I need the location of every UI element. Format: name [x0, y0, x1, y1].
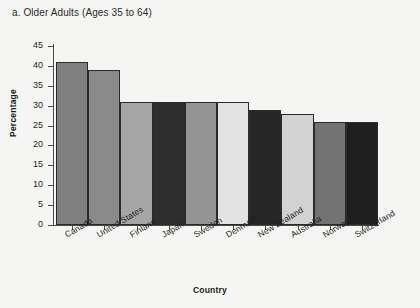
y-tick-mark	[48, 106, 53, 107]
y-tick-label: 20	[3, 139, 43, 149]
page-title: a. Older Adults (Ages 35 to 64)	[12, 7, 152, 18]
y-tick-mark	[48, 46, 53, 47]
bar-united-states	[88, 70, 120, 225]
bar-japan	[153, 102, 185, 225]
bar-canada	[56, 62, 88, 225]
y-tick-label: 0	[3, 219, 43, 229]
y-axis-line	[53, 44, 54, 226]
y-tick-label: 10	[3, 179, 43, 189]
bar-sweden	[185, 102, 217, 225]
y-tick-mark	[48, 126, 53, 127]
bar-new-zealand	[249, 110, 281, 225]
y-tick-mark	[48, 145, 53, 146]
bar-switzerland	[346, 122, 378, 225]
y-tick-label: 30	[3, 100, 43, 110]
y-tick-label: 5	[3, 199, 43, 209]
y-tick-label: 25	[3, 120, 43, 130]
y-tick-mark	[48, 185, 53, 186]
y-tick-mark	[48, 66, 53, 67]
y-tick-mark	[48, 165, 53, 166]
x-axis-title: Country	[0, 285, 420, 295]
chart-page: a. Older Adults (Ages 35 to 64) Percenta…	[0, 0, 420, 308]
y-tick-label: 40	[3, 60, 43, 70]
y-tick-mark	[48, 86, 53, 87]
plot-area	[56, 46, 378, 225]
bar-denmark	[217, 102, 249, 225]
bar-norway	[314, 122, 346, 225]
y-tick-label: 15	[3, 159, 43, 169]
y-tick-label: 35	[3, 80, 43, 90]
y-tick-mark	[48, 205, 53, 206]
y-tick-label: 45	[3, 40, 43, 50]
y-tick-mark	[48, 225, 53, 226]
